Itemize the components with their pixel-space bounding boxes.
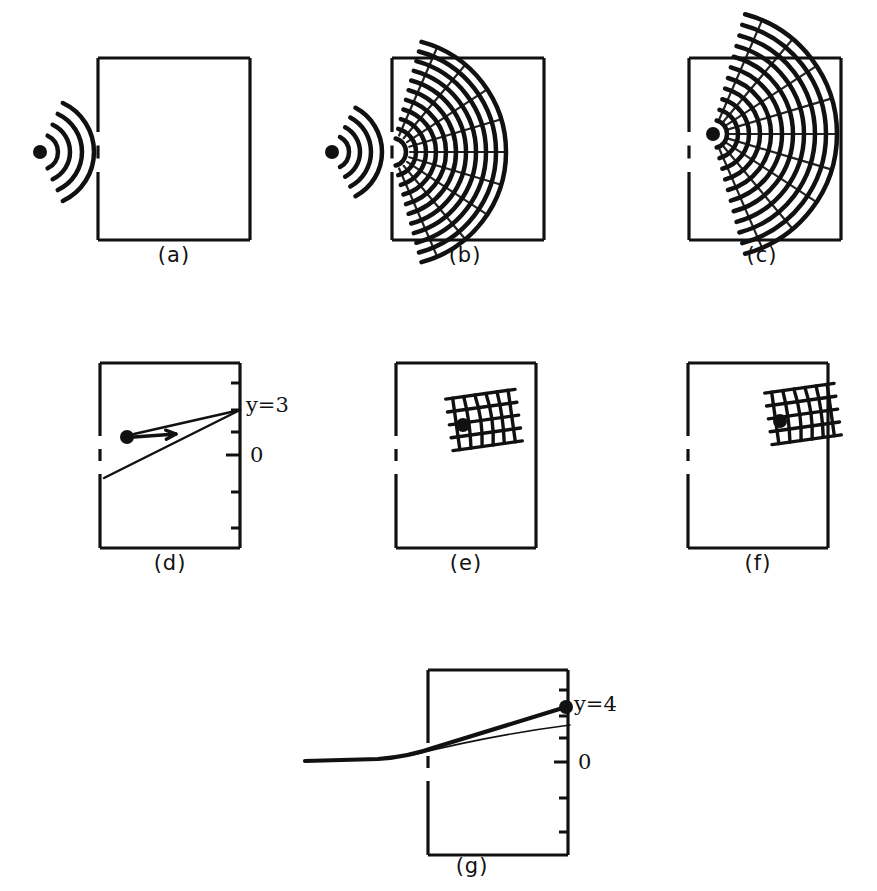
source-dot-f bbox=[773, 414, 787, 428]
axis-label-value: y=4 bbox=[573, 692, 617, 716]
source-dot-a bbox=[33, 145, 47, 159]
source-dot-d bbox=[120, 430, 134, 444]
axis-label-zero: 0 bbox=[250, 443, 263, 467]
figure-canvas: (a)(b)(c)y=30(d)(e)(f)y=40(g) bbox=[0, 0, 877, 891]
source-dot-g bbox=[559, 700, 573, 714]
figure-root: (a)(b)(c)y=30(d)(e)(f)y=40(g) bbox=[0, 0, 877, 891]
panel-caption-c: (c) bbox=[747, 243, 778, 267]
source-dot-b bbox=[325, 145, 339, 159]
panel-caption-d: (d) bbox=[154, 551, 187, 575]
source-dot-e bbox=[456, 418, 470, 432]
axis-label-value: y=3 bbox=[245, 393, 289, 417]
panel-caption-g: (g) bbox=[456, 854, 489, 878]
panel-caption-b: (b) bbox=[449, 243, 482, 267]
panel-caption-f: (f) bbox=[745, 551, 772, 575]
axis-label-zero: 0 bbox=[578, 750, 591, 774]
panel-caption-a: (a) bbox=[158, 243, 190, 267]
panel-caption-e: (e) bbox=[450, 551, 482, 575]
source-dot-c bbox=[706, 127, 720, 141]
